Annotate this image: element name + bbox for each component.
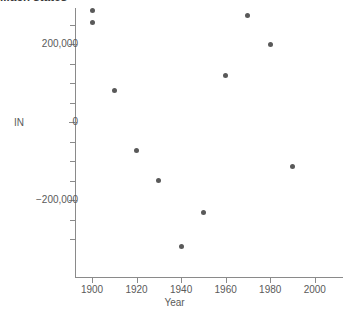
data-point bbox=[90, 8, 95, 13]
x-axis-tick bbox=[92, 278, 93, 283]
x-axis-title: Year bbox=[0, 298, 349, 308]
x-axis-tick bbox=[270, 278, 271, 283]
x-axis-tick bbox=[137, 278, 138, 283]
data-point bbox=[290, 164, 295, 169]
x-axis-tick-label: 1900 bbox=[72, 285, 112, 295]
x-axis-tick-label: 1940 bbox=[161, 285, 201, 295]
chart-title: ...ach states bbox=[0, 0, 200, 3]
data-point bbox=[201, 210, 206, 215]
x-axis-tick bbox=[226, 278, 227, 283]
data-point bbox=[223, 73, 228, 78]
y-axis-tick-label: 200,000 bbox=[42, 39, 78, 49]
scatter-chart: ...ach states 200,0000−200,000 190019201… bbox=[0, 0, 349, 318]
data-point bbox=[90, 20, 95, 25]
x-axis-tick bbox=[315, 278, 316, 283]
x-axis-tick-label: 2000 bbox=[295, 285, 335, 295]
x-axis-tick-label: 1980 bbox=[250, 285, 290, 295]
x-axis-tick bbox=[181, 278, 182, 283]
x-axis-tick-label: 1960 bbox=[206, 285, 246, 295]
y-axis-title: IN bbox=[14, 118, 24, 128]
x-axis-tick-label: 1920 bbox=[117, 285, 157, 295]
y-axis-tick-label: −200,000 bbox=[36, 195, 78, 205]
plot-area bbox=[75, 8, 345, 278]
data-point bbox=[179, 244, 184, 249]
